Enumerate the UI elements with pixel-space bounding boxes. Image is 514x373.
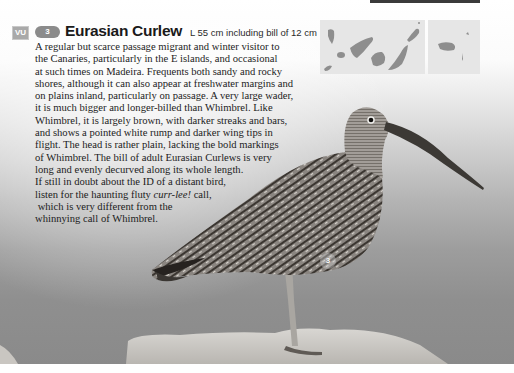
species-number-badge: 3 (35, 26, 60, 38)
species-size: L 55 cm including bill of 12 cm (190, 27, 317, 38)
description-line: the Canaries, particularly in the E isla… (35, 53, 335, 65)
description-line: long and evenly decurved along its whole… (35, 164, 335, 176)
description-line: shores, although it can also appear at f… (35, 78, 335, 90)
description-line: If still in doubt about the ID of a dist… (35, 176, 335, 188)
description-line: Whimbrel, it is largely brown, with dark… (35, 115, 335, 127)
description-line: flight. The head is rather plain, lackin… (35, 139, 335, 151)
description-line: whinnying call of Whimbrel. (35, 213, 335, 225)
page-header-bar (370, 0, 480, 3)
call-description-line: listen for the haunting fluty curr-lee! … (35, 189, 335, 201)
call-text-pre: listen for the haunting fluty (35, 189, 154, 200)
species-heading: Eurasian Curlew L 55 cm including bill o… (65, 22, 317, 40)
description-line: and shows a pointed white rump and darke… (35, 127, 335, 139)
conservation-status-badge: VU (12, 26, 29, 40)
description-line: A regular but scarce passage migrant and… (35, 41, 335, 53)
description-line: of Whimbrel. The bill of adult Eurasian … (35, 152, 335, 164)
call-text-post: call, (191, 189, 212, 200)
description-line: at such times on Madeira. Frequents both… (35, 66, 335, 78)
distribution-maps (320, 20, 480, 74)
map-madeira (428, 20, 480, 74)
canary-islands-map-icon (320, 20, 425, 74)
photo-marker-label: 3 (320, 253, 336, 269)
description-line: which is very different from the (35, 201, 335, 213)
description-line: on plains inland, particularly on passag… (35, 90, 335, 102)
description-line: it is much bigger and longer-billed than… (35, 102, 335, 114)
madeira-map-icon (428, 20, 480, 74)
call-text-italic: curr-lee! (154, 189, 191, 200)
page-bottom-margin (0, 364, 514, 373)
map-canary-islands (320, 20, 425, 74)
species-description: A regular but scarce passage migrant and… (35, 41, 335, 225)
species-name: Eurasian Curlew (65, 22, 182, 39)
